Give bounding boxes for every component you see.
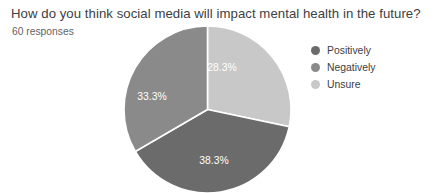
pie-slice-label: 28.3% xyxy=(207,62,236,73)
pie-chart-card: How do you think social media will impac… xyxy=(0,0,436,193)
response-count: 60 responses xyxy=(12,25,74,38)
legend-swatch-icon xyxy=(311,63,320,72)
legend-swatch-icon xyxy=(311,80,320,89)
chart-legend: PositivelyNegativelyUnsure xyxy=(311,42,426,93)
page-title: How do you think social media will impac… xyxy=(11,6,421,22)
legend-item[interactable]: Positively xyxy=(311,42,426,58)
pie-slice-label: 33.3% xyxy=(137,91,166,102)
pie-chart: 28.3%38.3%33.3% xyxy=(122,24,294,193)
legend-item-label: Negatively xyxy=(327,61,376,74)
pie-slice-label: 38.3% xyxy=(199,155,228,166)
legend-item-label: Positively xyxy=(327,44,371,57)
legend-item[interactable]: Negatively xyxy=(311,59,426,75)
legend-swatch-icon xyxy=(311,46,320,55)
pie-chart-svg: 28.3%38.3%33.3% xyxy=(122,24,294,193)
pie-slice-group xyxy=(124,26,291,193)
legend-item[interactable]: Unsure xyxy=(311,76,426,92)
legend-item-label: Unsure xyxy=(327,78,361,91)
